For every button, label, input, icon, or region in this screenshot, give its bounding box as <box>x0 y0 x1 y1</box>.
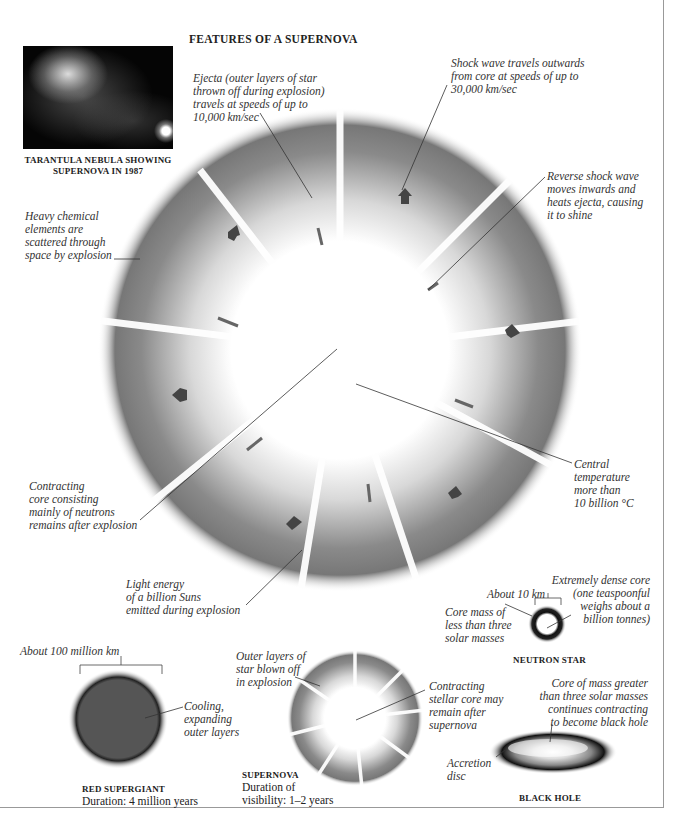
supernova-duration: Duration of visibility: 1–2 years <box>242 781 333 807</box>
label-line: scattered through <box>25 236 112 249</box>
label-line: 10,000 km/sec <box>193 111 325 124</box>
label-line: billion tonnes) <box>548 613 650 626</box>
label-line: supernova <box>429 719 503 732</box>
label-line: Shock wave travels outwards <box>451 57 584 70</box>
label-line: space by explosion <box>25 249 112 262</box>
label-line: Heavy chemical <box>25 210 112 223</box>
label-light-energy: Light energy of a billion Suns emitted d… <box>126 578 240 617</box>
red-supergiant-caption: RED SUPERGIANT <box>82 784 165 794</box>
label-outer-layers: Outer layers of star blown off in explos… <box>236 650 306 689</box>
label-line: solar masses <box>445 632 512 645</box>
label-line: core consisting <box>29 493 137 506</box>
label-line: (one teaspoonful <box>548 587 650 600</box>
label-line: stellar core may <box>429 693 503 706</box>
duration-line: Duration of <box>242 781 333 794</box>
label-ejecta: Ejecta (outer layers of star thrown off … <box>193 72 325 124</box>
label-accretion-disc: Accretion disc <box>447 757 491 783</box>
label-line: mainly of neutrons <box>29 506 137 519</box>
label-line: Cooling, <box>184 700 239 713</box>
label-red-supergiant-layers: Cooling, expanding outer layers <box>184 700 239 739</box>
label-line: Reverse shock wave <box>547 170 643 183</box>
label-neutron-dense-core: Extremely dense core (one teaspoonful we… <box>548 574 650 626</box>
label-line: more than <box>574 484 634 497</box>
label-line: outer layers <box>184 726 239 739</box>
label-line: Accretion <box>447 757 491 770</box>
label-line: heats ejecta, causing <box>547 196 643 209</box>
label-line: elements are <box>25 223 112 236</box>
label-heavy-elements: Heavy chemical elements are scattered th… <box>25 210 112 262</box>
label-line: remains after explosion <box>29 519 137 532</box>
label-black-hole-core: Core of mass greater than three solar ma… <box>532 677 648 729</box>
label-line: star blown off <box>236 663 306 676</box>
label-line: Light energy <box>126 578 240 591</box>
supernova-caption: SUPERNOVA <box>242 770 299 780</box>
label-line: than three solar masses <box>532 690 648 703</box>
label-line: travels at speeds of up to <box>193 98 325 111</box>
label-line: weighs about a <box>548 600 650 613</box>
label-line: expanding <box>184 713 239 726</box>
label-line: disc <box>447 770 491 783</box>
label-contracting-core: Contracting core consisting mainly of ne… <box>29 480 137 532</box>
label-shock-wave: Shock wave travels outwards from core at… <box>451 57 584 96</box>
red-supergiant-duration: Duration: 4 million years <box>82 795 198 808</box>
label-line: Contracting <box>429 680 503 693</box>
label-line: Contracting <box>29 480 137 493</box>
red-supergiant <box>68 669 168 769</box>
label-line: 30,000 km/sec <box>451 83 584 96</box>
label-line: temperature <box>574 471 634 484</box>
label-neutron-size: About 10 km <box>487 588 545 601</box>
label-stellar-core: Contracting stellar core may remain afte… <box>429 680 503 732</box>
label-line: Outer layers of <box>236 650 306 663</box>
label-line: in explosion <box>236 676 306 689</box>
label-line: moves inwards and <box>547 183 643 196</box>
label-line: Core of mass greater <box>532 677 648 690</box>
label-red-supergiant-size: About 100 million km <box>20 645 119 658</box>
black-hole-caption: BLACK HOLE <box>519 793 581 803</box>
neutron-star-caption: NEUTRON STAR <box>513 655 586 665</box>
label-line: less than three <box>445 619 512 632</box>
label-line: 10 billion °C <box>574 497 634 510</box>
label-line: it to shine <box>547 209 643 222</box>
label-reverse-shock: Reverse shock wave moves inwards and hea… <box>547 170 643 222</box>
label-line: remain after <box>429 706 503 719</box>
label-line: Ejecta (outer layers of star <box>193 72 325 85</box>
label-neutron-core-mass: Core mass of less than three solar masse… <box>445 606 512 645</box>
label-line: Extremely dense core <box>548 574 650 587</box>
label-line: from core at speeds of up to <box>451 70 584 83</box>
label-line: emitted during explosion <box>126 604 240 617</box>
label-central-temperature: Central temperature more than 10 billion… <box>574 458 634 510</box>
label-line: Core mass of <box>445 606 512 619</box>
label-line: Central <box>574 458 634 471</box>
label-line: continues contracting <box>532 703 648 716</box>
label-line: thrown off during explosion) <box>193 85 325 98</box>
duration-line: visibility: 1–2 years <box>242 794 333 807</box>
label-line: to become black hole <box>532 716 648 729</box>
label-line: of a billion Suns <box>126 591 240 604</box>
